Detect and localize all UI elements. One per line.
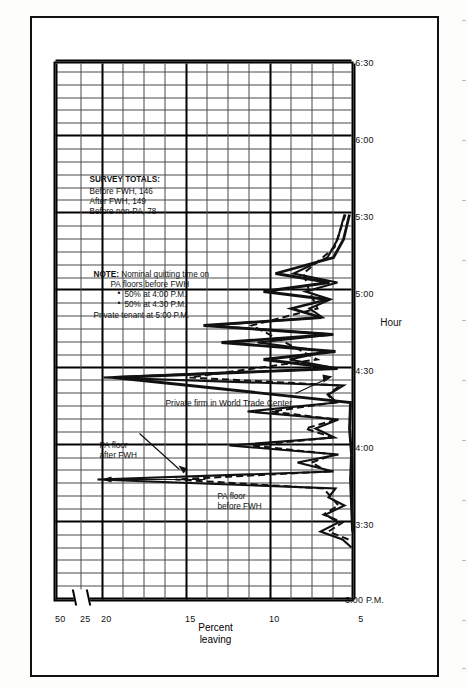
curve-label-pa-after-line1: PA floor [99,440,136,450]
curve-label-pa-after-line2: after FWH [99,450,136,460]
curve-label-pa-before: PA floor before FWH [217,491,261,511]
xtick-330: 3:30 [350,519,378,529]
survey-total-before-fwh: Before FWH, 146 [89,186,159,196]
xtick-430: 4:30 [350,365,378,375]
survey-totals-block: SURVEY TOTALS: Before FWH, 146 After FWH… [89,174,159,216]
ytick-5: 5 [337,613,363,623]
plot-wrapper: PA floor before FWH PA floor after FWH P… [53,61,353,601]
note-block: NOTE: Nominal quitting time on PA floors… [93,269,209,320]
x-axis-title: Hour [380,317,402,328]
figure-page: PA floor before FWH PA floor after FWH P… [0,0,468,689]
note-line2: PA floors before FWH [93,279,209,289]
survey-total-after-fwh: After FWH, 149 [89,196,159,206]
ytick-10: 10 [253,613,279,623]
note-bullet-1: 50% at 4:00 P.M. [117,289,209,299]
ytick-15: 15 [169,613,195,623]
annotation-leaders [55,59,355,599]
survey-totals-heading: SURVEY TOTALS: [89,174,159,183]
note-bullet-2: 50% at 4:30 P.M. [117,299,209,309]
note-line3: Private tenant at 5:00 P.M. [93,310,209,320]
xtick-630: 6:30 [350,57,378,67]
curve-label-private-firm-line1: Private firm in World Trade Center [165,397,291,407]
ytick-25: 25 [64,613,90,623]
curve-label-private-firm: Private firm in World Trade Center [165,397,291,407]
y-axis-title-line1: Percent [198,622,232,634]
chart-stage: PA floor before FWH PA floor after FWH P… [47,34,422,659]
xtick-400: 4:00 [350,442,378,452]
survey-total-before-non-pa: Before non-PA, 78 [89,206,159,216]
xtick-530: 5:30 [350,211,378,221]
xtick-300pm: 3:00 P.M. [344,594,384,604]
curve-label-pa-before-line2: before FWH [217,501,261,511]
note-line1: Nominal quitting time on [121,269,209,278]
scan-edge-marks [460,20,466,670]
curve-label-pa-before-line1: PA floor [217,491,261,501]
plot-area: PA floor before FWH PA floor after FWH P… [53,61,353,601]
note-heading: NOTE: [93,269,118,278]
xtick-500: 5:00 [350,288,378,298]
y-axis-title: Percent leaving [198,622,232,646]
curve-label-pa-after: PA floor after FWH [99,440,136,460]
figure-frame: PA floor before FWH PA floor after FWH P… [30,16,439,677]
ytick-50: 50 [39,613,65,623]
xtick-600: 6:00 [350,134,378,144]
y-axis-title-line2: leaving [198,634,232,646]
